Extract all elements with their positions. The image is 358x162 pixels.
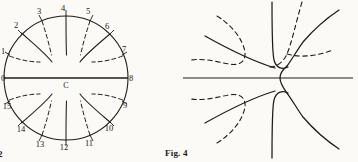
figure-2-caption: . 2 — [0, 149, 3, 159]
fig2-dash-from-5 — [81, 21, 91, 55]
fig4-curve-upper-left-hook — [272, 2, 288, 68]
figure-4-diagram — [175, 0, 358, 162]
fig2-label-10: 10 — [105, 123, 114, 133]
fig2-dash-from-7 — [92, 56, 123, 62]
fig2-dash-from-1 — [10, 56, 41, 62]
fig4-curve-right-upper-ray — [287, 10, 339, 66]
fig2-label-0: 0 — [1, 73, 5, 83]
fig2-label-1: 1 — [1, 46, 5, 56]
fig2-label-2: 2 — [14, 20, 18, 30]
fig2-dash-from-15 — [10, 94, 41, 100]
fig2-label-13: 13 — [36, 139, 45, 149]
figure-2-diagram: 0 1 2 3 4 5 6 7 8 9 10 11 12 13 14 15 C — [0, 0, 175, 162]
fig2-solid-curves-upper — [22, 16, 111, 62]
fig2-label-4: 4 — [61, 3, 66, 13]
fig4-solid-curves — [205, 2, 339, 158]
fig2-label-11: 11 — [85, 138, 93, 148]
fig2-label-5: 5 — [86, 6, 90, 16]
figure-page: 0 1 2 3 4 5 6 7 8 9 10 11 12 13 14 15 C — [0, 0, 358, 162]
fig2-label-12: 12 — [60, 142, 69, 152]
fig2-label-6: 6 — [105, 21, 109, 31]
figure-4-caption: Fig. 4 — [165, 148, 188, 158]
fig4-dash-upper-left — [191, 16, 245, 65]
fig4-curve-lower-left-hook — [272, 92, 288, 158]
fig4-dashed-curves — [191, 2, 333, 143]
fig2-label-8: 8 — [129, 73, 133, 83]
tick-5 — [90, 15, 93, 21]
fig2-dash-from-9 — [92, 94, 123, 100]
fig2-label-7: 7 — [122, 44, 126, 54]
fig2-dash-from-13 — [42, 101, 52, 135]
fig2-center-label: C — [63, 81, 68, 90]
fig2-solid-curves-lower — [22, 94, 111, 140]
fig4-dash-lower-left — [191, 95, 245, 144]
fig4-curve-right-lower-ray — [287, 93, 339, 149]
fig2-curve-from-12 — [66, 101, 67, 140]
fig2-dash-from-3 — [42, 21, 52, 55]
fig2-label-15: 15 — [3, 101, 12, 111]
fig2-label-3: 3 — [37, 6, 41, 16]
fig2-label-14: 14 — [17, 124, 26, 134]
fig2-curve-from-4 — [66, 16, 67, 55]
fig4-curve-right-vertex — [280, 66, 287, 93]
fig2-dash-from-11 — [81, 101, 91, 135]
fig2-label-9: 9 — [123, 100, 127, 110]
